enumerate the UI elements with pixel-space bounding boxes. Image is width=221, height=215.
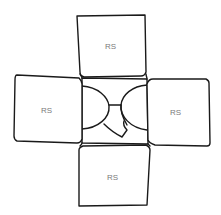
- center-knot-shape: [104, 121, 127, 137]
- rs-box-right-label: RS: [170, 108, 181, 117]
- left-arch-curve: [82, 86, 109, 129]
- rs-box-right[interactable]: RS: [147, 79, 210, 146]
- center-square: [80, 74, 150, 146]
- rs-box-bottom-label: RS: [107, 173, 118, 182]
- rs-box-top-label: RS: [105, 42, 116, 51]
- rs-box-left-label: RS: [41, 106, 52, 115]
- rs-box-left[interactable]: RS: [14, 75, 82, 143]
- right-arch-curve: [121, 85, 147, 130]
- diagram-canvas: RS RS RS RS: [0, 0, 221, 215]
- rs-box-bottom[interactable]: RS: [79, 145, 150, 206]
- rs-box-top[interactable]: RS: [77, 15, 146, 77]
